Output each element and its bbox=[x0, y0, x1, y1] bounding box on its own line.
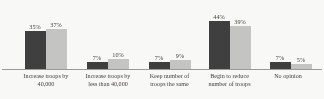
bar-column: 35% bbox=[25, 0, 46, 70]
bar-column: 39% bbox=[230, 0, 251, 70]
bar-series-2 bbox=[46, 29, 67, 70]
bar-column: 7% bbox=[149, 0, 170, 70]
category-label-line: number of troops bbox=[192, 80, 267, 88]
bar-series-2 bbox=[230, 26, 251, 70]
bar-column: 9% bbox=[170, 0, 191, 70]
bar-value-label: 39% bbox=[223, 18, 257, 25]
bar-value-label: 37% bbox=[39, 21, 73, 28]
bar-group: 7% 5% bbox=[266, 0, 315, 70]
bar-column: 37% bbox=[46, 0, 67, 70]
category-label: No opinion bbox=[254, 72, 322, 80]
bar-group: 35% 37% bbox=[21, 0, 70, 70]
bar-value-label: 10% bbox=[101, 51, 135, 58]
axis-baseline bbox=[2, 69, 322, 70]
bar-series-1 bbox=[25, 31, 46, 70]
bar-series-1 bbox=[209, 21, 230, 70]
bar-value-label: 5% bbox=[284, 56, 318, 63]
bar-column: 7% bbox=[87, 0, 108, 70]
bar-value-label: 9% bbox=[163, 52, 197, 59]
bar-column: 44% bbox=[209, 0, 230, 70]
category-label-line: No opinion bbox=[254, 72, 322, 80]
bar-column: 10% bbox=[108, 0, 129, 70]
bar-group: 7% 9% bbox=[145, 0, 194, 70]
category-axis-labels: Increase troops by 40,000 Increase troop… bbox=[0, 72, 324, 99]
bar-column: 5% bbox=[291, 0, 312, 70]
plot-area: 35% 37% 7% 10% bbox=[0, 0, 324, 70]
bar-group: 44% 39% bbox=[205, 0, 254, 70]
bar-chart: 35% 37% 7% 10% bbox=[0, 0, 324, 99]
bar-group: 7% 10% bbox=[83, 0, 132, 70]
